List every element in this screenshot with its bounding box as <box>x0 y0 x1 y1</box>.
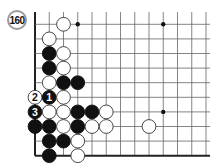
white-stone <box>57 61 71 75</box>
move-label: 1 <box>46 91 52 103</box>
white-stone-2: 2 <box>28 90 42 104</box>
white-stone <box>57 120 71 134</box>
black-stone <box>71 76 85 90</box>
hoshi-point-icon <box>76 22 80 26</box>
black-stone <box>42 149 56 163</box>
white-stone <box>57 105 71 119</box>
black-stone <box>42 134 56 148</box>
white-stone <box>99 105 113 119</box>
move-label: 3 <box>32 106 38 118</box>
white-stone <box>71 149 85 163</box>
black-stone <box>85 105 99 119</box>
black-stone-3: 3 <box>28 105 42 119</box>
white-stone <box>99 120 113 134</box>
move-number-badge: 160 <box>7 10 27 30</box>
white-stone <box>57 17 71 31</box>
black-stone <box>57 134 71 148</box>
black-stone <box>42 61 56 75</box>
black-stone <box>42 120 56 134</box>
black-stone-1: 1 <box>42 90 56 104</box>
white-stone <box>42 105 56 119</box>
black-stone <box>57 76 71 90</box>
white-stone <box>85 120 99 134</box>
white-stone <box>42 32 56 46</box>
white-stone <box>57 90 71 104</box>
hoshi-point-icon <box>161 22 165 26</box>
black-stone <box>71 105 85 119</box>
black-stone <box>42 47 56 61</box>
black-stone <box>28 120 42 134</box>
white-stone <box>57 47 71 61</box>
move-label: 2 <box>32 91 38 103</box>
black-stone <box>71 120 85 134</box>
white-stone <box>142 120 156 134</box>
move-number-text: 160 <box>10 15 25 26</box>
go-board: 213 <box>0 0 211 164</box>
hoshi-point-icon <box>161 110 165 114</box>
white-stone <box>42 76 56 90</box>
white-stone <box>71 134 85 148</box>
